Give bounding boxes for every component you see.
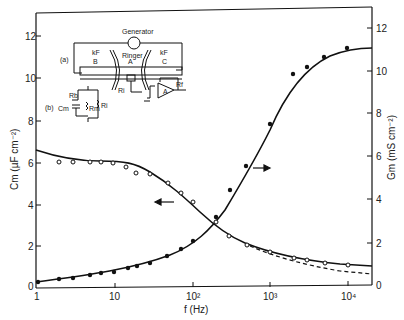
cm-fit-curve bbox=[36, 150, 372, 266]
svg-text:6: 6 bbox=[28, 158, 34, 169]
gm-fit-curve bbox=[36, 48, 372, 282]
svg-text:Ri: Ri bbox=[101, 102, 108, 109]
left-axis-ticks bbox=[36, 36, 41, 246]
svg-text:10⁴: 10⁴ bbox=[341, 291, 356, 302]
svg-text:A: A bbox=[128, 58, 133, 65]
left-axis-labels: 12 10 8 6 4 2 0 bbox=[25, 31, 37, 292]
right-axis-ticks bbox=[367, 28, 372, 243]
svg-text:4: 4 bbox=[28, 200, 34, 211]
chart: 12 10 8 6 4 2 0 Cm (µF cm⁻²) 12 10 8 6 4… bbox=[0, 0, 404, 320]
svg-text:0: 0 bbox=[376, 280, 382, 291]
svg-text:8: 8 bbox=[28, 116, 34, 127]
svg-text:(b): (b) bbox=[45, 104, 54, 112]
inset-labels-a: Generator Ringer kF kF B A C Ri Rf A (a) bbox=[60, 28, 183, 95]
svg-text:1: 1 bbox=[34, 291, 40, 302]
svg-text:Rm: Rm bbox=[89, 105, 100, 112]
svg-text:12: 12 bbox=[376, 23, 388, 34]
cm-data-points bbox=[57, 160, 350, 267]
svg-text:Ri: Ri bbox=[118, 87, 125, 94]
svg-text:Rb: Rb bbox=[69, 92, 78, 99]
svg-text:Rf: Rf bbox=[176, 81, 183, 88]
svg-text:6: 6 bbox=[376, 151, 382, 162]
left-axis-title: Cm (µF cm⁻²) bbox=[9, 129, 20, 190]
svg-text:kF: kF bbox=[160, 49, 168, 56]
svg-text:10: 10 bbox=[109, 291, 121, 302]
svg-text:2: 2 bbox=[28, 241, 34, 252]
svg-text:10: 10 bbox=[376, 66, 388, 77]
svg-text:C: C bbox=[162, 58, 167, 65]
right-axis-title: Gm (mS cm⁻²) bbox=[386, 115, 397, 180]
svg-text:2: 2 bbox=[376, 238, 382, 249]
svg-text:10²: 10² bbox=[186, 291, 201, 302]
svg-text:A: A bbox=[163, 88, 168, 95]
gm-data-points bbox=[36, 46, 349, 284]
plot-frame bbox=[36, 7, 372, 288]
svg-text:10: 10 bbox=[25, 73, 37, 84]
x-axis-title: f (Hz) bbox=[184, 304, 208, 315]
svg-text:(a): (a) bbox=[60, 56, 69, 64]
inset-circuit-a bbox=[74, 37, 186, 101]
svg-text:Cm: Cm bbox=[58, 105, 69, 112]
svg-text:10³: 10³ bbox=[263, 291, 278, 302]
svg-text:8: 8 bbox=[376, 108, 382, 119]
svg-text:B: B bbox=[93, 58, 98, 65]
cm-arrow-icon bbox=[155, 199, 174, 205]
gm-arrow-icon bbox=[253, 165, 270, 171]
svg-text:12: 12 bbox=[25, 31, 37, 42]
svg-text:Generator: Generator bbox=[122, 28, 154, 35]
x-axis-labels: 1 10 10² 10³ 10⁴ bbox=[34, 291, 356, 302]
svg-text:4: 4 bbox=[376, 194, 382, 205]
svg-text:kF: kF bbox=[92, 49, 100, 56]
